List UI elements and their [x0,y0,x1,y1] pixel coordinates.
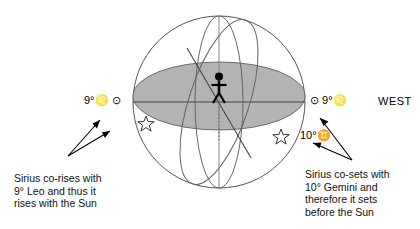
left-caption-text: Sirius co-rises with 9° Leo and thus it … [14,172,164,210]
left-annotation-arrows [68,120,110,156]
west-direction-label: WEST [378,95,412,107]
sirius-star-setting-icon [273,129,289,144]
diagram-canvas: 9°♌ ⊙ ⊙ 9°♌ 10°♊ WEST Sirius co-rises wi… [0,0,420,229]
gemini-degree-label: 10°♊ [300,130,331,141]
west-sun-leo-label: ⊙ 9°♌ [310,95,347,106]
sirius-star-rising-icon [138,116,154,131]
east-sun-leo-label: 9°♌ ⊙ [84,95,121,106]
right-caption-text: Sirius co-sets with 10° Gemini and there… [305,168,420,218]
